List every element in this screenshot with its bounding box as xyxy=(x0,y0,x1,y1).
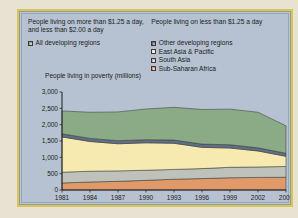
x-tick-label: 1987 xyxy=(111,194,126,201)
legend-item-other-developing-regions[interactable]: Other developing regions xyxy=(151,39,284,48)
x-tick-label: 1984 xyxy=(83,194,98,201)
figure-root: Source: Atlas of Global Development, 201… xyxy=(0,0,298,218)
stacked-area-chart: 05001,0001,5002,0002,5003,00019811984198… xyxy=(26,88,290,206)
legend-swatch-icon xyxy=(151,66,156,71)
x-tick-label: 1996 xyxy=(195,194,210,201)
legend-heading-left: People living on more than $1.25 a day, … xyxy=(28,18,151,35)
x-tick-label: 1990 xyxy=(139,194,154,201)
x-tick-label: 1981 xyxy=(55,194,70,201)
x-tick-label: 2002 xyxy=(251,194,266,201)
legend-item-south-asia[interactable]: South Asia xyxy=(151,56,284,65)
y-tick-label: 1,000 xyxy=(42,154,59,161)
legend-label: All developing regions xyxy=(36,39,101,47)
chart-card: People living on more than $1.25 a day, … xyxy=(17,9,293,207)
legend-label: Other developing regions xyxy=(159,39,233,47)
legend-swatch-icon xyxy=(151,41,156,46)
legend-label: East Asia & Pacific xyxy=(159,48,214,56)
y-tick-label: 500 xyxy=(47,170,58,177)
legend: People living on more than $1.25 a day, … xyxy=(28,18,284,73)
legend-swatch-icon xyxy=(28,41,33,46)
x-tick-label: 1999 xyxy=(223,194,238,201)
legend-swatch-icon xyxy=(151,58,156,63)
plot-area: 05001,0001,5002,0002,5003,00019811984198… xyxy=(26,88,282,198)
legend-item-east-asia-pacific[interactable]: East Asia & Pacific xyxy=(151,47,284,56)
y-tick-label: 3,000 xyxy=(42,88,59,95)
legend-column-right: Other developing regions East Asia & Pac… xyxy=(151,39,284,73)
legend-item-all-developing-regions[interactable]: All developing regions xyxy=(28,39,151,48)
legend-label: South Asia xyxy=(159,56,191,64)
legend-headings: People living on more than $1.25 a day, … xyxy=(28,18,284,35)
legend-swatch-icon xyxy=(151,49,156,54)
y-tick-label: 1,500 xyxy=(42,137,59,144)
legend-heading-right: People living on less than $1.25 a day xyxy=(151,18,284,35)
chart-card-inner: People living on more than $1.25 a day, … xyxy=(21,13,289,203)
legend-item-sub-saharan-africa[interactable]: Sub-Saharan Africa xyxy=(151,65,284,74)
y-tick-label: 2,000 xyxy=(42,121,59,128)
y-tick-label: 0 xyxy=(54,186,58,193)
legend-column-left: All developing regions xyxy=(28,39,151,73)
legend-label: Sub-Saharan Africa xyxy=(159,65,216,73)
y-tick-label: 2,500 xyxy=(42,105,59,112)
x-tick-label: 2005 xyxy=(279,194,290,201)
y-axis-title: People living in poverty (millions) xyxy=(45,72,141,80)
legend-keys: All developing regions Other developing … xyxy=(28,39,284,73)
x-tick-label: 1993 xyxy=(167,194,182,201)
